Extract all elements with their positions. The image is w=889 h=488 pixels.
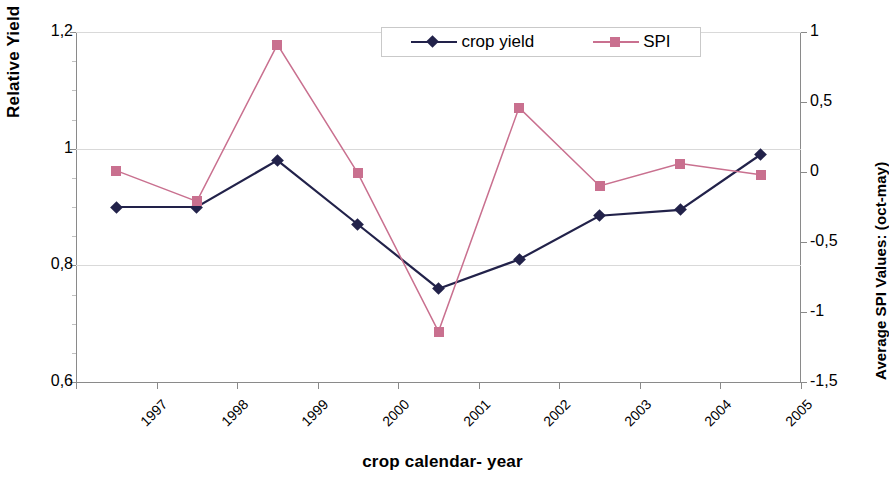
x-axis-tick-label: 1999: [299, 396, 332, 429]
legend-label-crop-yield: crop yield: [461, 32, 534, 52]
x-tick: [640, 383, 641, 389]
x-axis-tick-label: 2001: [460, 396, 493, 429]
x-tick: [76, 383, 77, 389]
x-tick: [479, 383, 480, 389]
y-axis-right-tick-label: 0: [810, 162, 819, 180]
x-axis-tick-label: 2000: [379, 396, 412, 429]
y-tick-right: [801, 312, 807, 313]
data-point-SPI-2002: [514, 103, 524, 113]
x-axis-title: crop calendar- year: [0, 452, 885, 472]
y-axis-right-title: Average SPI Values: (oct-may): [872, 50, 889, 380]
y-tick-right: [801, 172, 807, 173]
x-tick: [398, 383, 399, 389]
y-axis-left-tick-label: 0,8: [51, 255, 73, 273]
plot-axis-bottom: [76, 382, 802, 383]
plot-area: [76, 32, 801, 382]
legend-swatch-crop-yield: [411, 35, 457, 49]
data-point-SPI-2000: [353, 168, 363, 178]
y-tick-right: [801, 102, 807, 103]
y-tick-right: [801, 242, 807, 243]
x-axis-tick-label: 1998: [218, 396, 251, 429]
series-line-crop-yield: [116, 155, 760, 289]
legend-entry-spi: SPI: [593, 32, 670, 52]
x-tick: [157, 383, 158, 389]
y-axis-right-tick-label: -1: [810, 302, 824, 320]
x-tick: [318, 383, 319, 389]
data-point-SPI-1999: [272, 40, 282, 50]
legend-label-spi: SPI: [643, 32, 670, 52]
data-point-SPI-2004: [675, 159, 685, 169]
data-point-SPI-1998: [192, 196, 202, 206]
y-axis-right-tick-label: 0,5: [810, 92, 832, 110]
x-tick: [237, 383, 238, 389]
legend-swatch-spi: [593, 35, 639, 49]
x-tick: [801, 383, 802, 389]
y-axis-left-title: Relative Yield: [4, 0, 24, 118]
x-tick: [559, 383, 560, 389]
y-axis-left-tick-label: 0,6: [51, 372, 73, 390]
y-axis-left-tick-label: 1: [64, 139, 73, 157]
data-point-SPI-2001: [434, 327, 444, 337]
x-axis-tick-label: 1997: [137, 396, 170, 429]
x-axis-tick-label: 2005: [782, 396, 815, 429]
x-tick: [720, 383, 721, 389]
legend-entry-crop-yield: crop yield: [411, 32, 534, 52]
legend-marker-square: [610, 37, 620, 47]
x-axis-tick-label: 2004: [701, 396, 734, 429]
y-axis-right-tick-label: 1: [810, 22, 819, 40]
legend-marker-diamond: [427, 35, 440, 48]
x-axis-tick-label: 2003: [621, 396, 654, 429]
data-point-SPI-2003: [595, 181, 605, 191]
y-axis-left-tick-label: 1,2: [51, 22, 73, 40]
x-axis-tick-label: 2002: [540, 396, 573, 429]
y-tick-right: [801, 32, 807, 33]
y-axis-right-tick-label: -0,5: [810, 232, 838, 250]
y-axis-right-tick-label: -1,5: [810, 372, 838, 390]
data-point-SPI-1997: [111, 166, 121, 176]
chart-legend: crop yield SPI: [381, 27, 701, 57]
data-point-SPI-2005: [756, 170, 766, 180]
